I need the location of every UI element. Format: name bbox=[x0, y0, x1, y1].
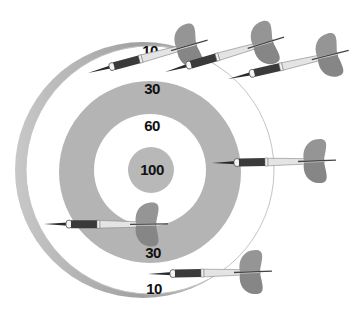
label-bullseye: 100 bbox=[140, 161, 164, 178]
label-inner: 60 bbox=[144, 117, 160, 134]
label-ring-bottom: 30 bbox=[145, 244, 161, 261]
label-ring-top: 30 bbox=[144, 80, 160, 97]
dartboard-illustration: 10 30 60 100 30 10 bbox=[0, 0, 355, 311]
label-outer-bottom: 10 bbox=[146, 280, 162, 297]
dartboard: 10 30 60 100 30 10 bbox=[15, 42, 274, 298]
